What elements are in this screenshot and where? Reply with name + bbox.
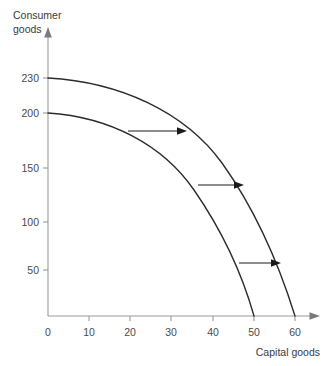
y-axis-title-line1: Consumer xyxy=(13,9,62,21)
x-tick-label-50: 50 xyxy=(248,326,260,338)
x-tick-label-0: 0 xyxy=(45,326,51,338)
ppf-curve-shifted xyxy=(48,78,295,316)
y-tick-label-100: 100 xyxy=(21,216,39,228)
x-axis-title: Capital goods xyxy=(256,346,320,358)
x-tick-label-40: 40 xyxy=(207,326,219,338)
y-axis-title-line2: goods xyxy=(13,23,42,35)
ppf-curve-original xyxy=(48,113,254,316)
ppf-plot-area: 50 100 150 200 230 0 10 20 30 40 50 60 xyxy=(0,0,332,366)
x-tick-label-30: 30 xyxy=(165,326,177,338)
x-axis-ticks xyxy=(89,316,295,321)
x-tick-label-20: 20 xyxy=(124,326,136,338)
y-tick-label-50: 50 xyxy=(27,264,39,276)
x-tick-label-10: 10 xyxy=(83,326,95,338)
y-axis-ticks xyxy=(43,78,48,270)
y-tick-label-200: 200 xyxy=(21,107,39,119)
x-axis-arrowhead xyxy=(310,312,321,320)
y-tick-label-150: 150 xyxy=(21,162,39,174)
x-tick-label-60: 60 xyxy=(289,326,301,338)
ppf-chart: 50 100 150 200 230 0 10 20 30 40 50 60 xyxy=(0,0,332,366)
y-axis-arrowhead xyxy=(44,27,52,38)
growth-arrow-middle xyxy=(198,181,244,189)
growth-arrow-upper xyxy=(128,127,187,135)
y-tick-label-230: 230 xyxy=(21,72,39,84)
